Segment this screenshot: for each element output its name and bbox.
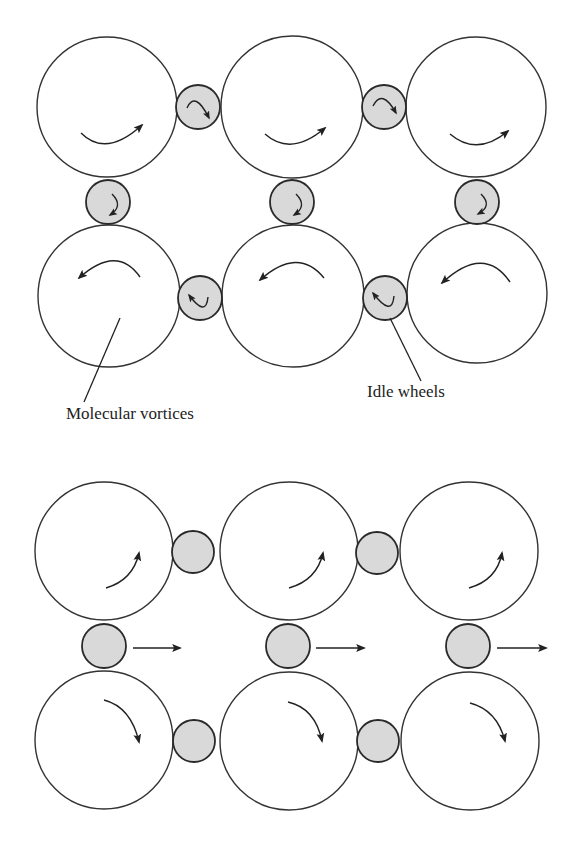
vortex-bottom-r2c2: [220, 672, 358, 810]
idle-wheel: [178, 276, 222, 320]
top-diagram: [37, 36, 547, 402]
molecular-vortices-label: Molecular vortices: [66, 404, 194, 424]
vortex-top-r2c1: [38, 225, 180, 367]
vortex-top-r1c3: [406, 37, 546, 177]
vortex-diagram: [0, 0, 583, 863]
idle-wheel-translating: [82, 624, 180, 668]
vortex-bottom-r1c2: [220, 482, 358, 620]
vortex-top-r1c2: [221, 36, 363, 178]
bottom-diagram: [35, 482, 546, 810]
vortex-bottom-r1c3: [400, 482, 538, 620]
idle-wheel: [176, 85, 220, 129]
vortex-bottom-r1c1: [35, 482, 173, 620]
idle-wheel: [357, 720, 399, 762]
idle-wheel: [455, 180, 499, 224]
vortex-top-r2c2: [222, 225, 364, 367]
idle-wheel-translating: [266, 624, 364, 668]
idle-wheel: [173, 720, 215, 762]
idle-wheel: [363, 276, 407, 320]
idle-wheel: [172, 531, 214, 573]
vortex-top-r1c1: [37, 37, 177, 177]
idle-wheel: [86, 180, 130, 224]
idle-wheel: [362, 85, 406, 129]
idle-wheels-label: Idle wheels: [367, 382, 445, 402]
vortex-top-r2c3: [407, 223, 547, 363]
vortex-bottom-r2c3: [401, 672, 539, 810]
idle-wheel: [356, 532, 398, 574]
idle-wheel: [270, 180, 314, 224]
idle-wheel-translating: [446, 624, 546, 668]
vortex-bottom-r2c1: [35, 671, 173, 809]
